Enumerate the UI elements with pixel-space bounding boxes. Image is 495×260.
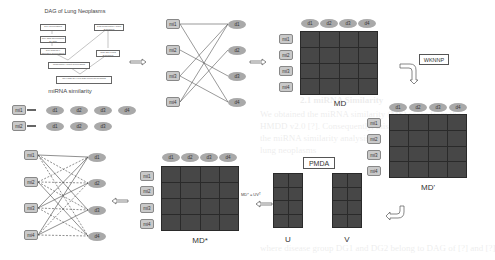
mdstar-row-header: mi3 xyxy=(140,203,154,213)
disease-node: d3 xyxy=(94,122,112,131)
disease-node: d3 xyxy=(94,106,112,115)
formula-text: MD* = UVᵀ xyxy=(241,192,261,197)
u-label: U xyxy=(278,235,298,244)
wknnp-box: WKNNP xyxy=(419,54,449,65)
mdp-col-header: d1 xyxy=(389,103,407,112)
disease-node: d2 xyxy=(70,122,88,131)
md-row-header: mi3 xyxy=(279,66,293,76)
md-row-header: mi4 xyxy=(279,82,293,92)
dag-node: C08.381 Lung Diseases xyxy=(96,50,120,57)
disease-node: d4 xyxy=(228,98,246,107)
md-col-header: d4 xyxy=(358,19,376,28)
md-col-header: d2 xyxy=(320,19,338,28)
mirna-node: mi2 xyxy=(166,45,180,55)
dag-node: C08 Respiratory Tract Diseases xyxy=(94,24,124,31)
md-label: MD xyxy=(320,99,360,108)
dag-node: C04.588.894.797.520 Lung Neoplasms xyxy=(56,76,112,84)
mirna-node: mi1 xyxy=(166,19,180,29)
md-star-label: MD* xyxy=(180,236,220,245)
disease-node: d3 xyxy=(228,72,246,81)
v-label: V xyxy=(337,235,357,244)
disease-node: d4 xyxy=(118,106,136,115)
mdp-col-header: d3 xyxy=(429,103,447,112)
disease-node: d2 xyxy=(88,179,106,188)
disease-node: d1 xyxy=(228,20,246,29)
disease-node: d1 xyxy=(88,153,106,162)
dag-node: Respiratory Tract Neoplasms xyxy=(48,62,90,69)
mdp-row-header: mi2 xyxy=(367,134,381,144)
pmda-box: PMDA xyxy=(303,157,335,169)
mirna-similarity-label: miRNA similarity xyxy=(40,88,100,94)
dag-node: C04.588.894 Thoracic Neoplasms xyxy=(40,48,66,55)
md-col-header: d3 xyxy=(339,19,357,28)
disease-node: d1 xyxy=(46,106,64,115)
mirna-node: mi3 xyxy=(166,71,180,81)
mdp-row-header: mi3 xyxy=(367,150,381,160)
disease-node: d2 xyxy=(228,46,246,55)
disease-node: d2 xyxy=(70,106,88,115)
disease-node: d3 xyxy=(88,206,106,215)
mirna-node: mi1 xyxy=(24,150,38,160)
mdp-col-header: d2 xyxy=(409,103,427,112)
md-star-matrix xyxy=(161,166,239,231)
md-row-header: mi1 xyxy=(279,34,293,44)
mirna-node: mi4 xyxy=(166,97,180,107)
u-matrix xyxy=(273,173,303,228)
md-row-header: mi2 xyxy=(279,50,293,60)
dag-node: C04.588 Neoplasms by Site xyxy=(40,36,66,43)
disease-node: d1 xyxy=(46,122,64,131)
md-col-header: d1 xyxy=(301,19,319,28)
mdstar-row-header: mi2 xyxy=(140,186,154,196)
mirna-node: mi3 xyxy=(24,203,38,213)
mdp-col-header: d4 xyxy=(449,103,467,112)
dag-title: DAG of Lung Neoplasms xyxy=(30,8,120,14)
mdstar-row-header: mi1 xyxy=(140,171,154,181)
mirna-node: mi2 xyxy=(12,121,26,131)
mdstar-col-header: d3 xyxy=(200,153,218,162)
mdstar-row-header: mi4 xyxy=(140,219,154,229)
mirna-node: mi2 xyxy=(24,177,38,187)
mdstar-col-header: d4 xyxy=(219,153,237,162)
mirna-node: mi1 xyxy=(12,105,26,115)
mirna-node: mi4 xyxy=(24,230,38,240)
md-matrix xyxy=(300,31,378,95)
mdp-row-header: mi1 xyxy=(367,118,381,128)
disease-node: d4 xyxy=(88,232,106,241)
mdstar-col-header: d2 xyxy=(181,153,199,162)
md-prime-label: MD' xyxy=(408,183,448,192)
dag-node: C04 Neoplasms xyxy=(40,24,66,31)
mdp-row-header: mi4 xyxy=(367,166,381,176)
v-matrix xyxy=(332,173,362,228)
md-prime-matrix xyxy=(389,114,467,178)
mdstar-col-header: d1 xyxy=(162,153,180,162)
